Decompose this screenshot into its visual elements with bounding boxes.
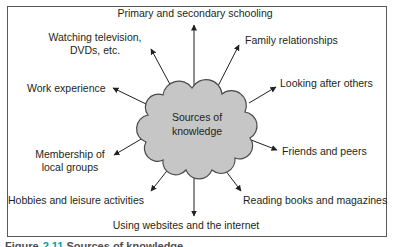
arrow-membership (114, 138, 143, 155)
cloud-title-line2: knowledge (172, 125, 222, 139)
node-friends: Friends and peers (282, 145, 367, 158)
node-watching-tv-line1: Watching television, (49, 31, 142, 44)
figure-caption-number: 2.11 (39, 240, 67, 247)
figure-caption: Figure2.11Sources of knowledge (5, 240, 183, 247)
node-websites: Using websites and the internet (113, 219, 260, 232)
arrow-family (217, 45, 239, 88)
node-watching-tv-line2: DVDs, etc. (49, 44, 142, 57)
node-looking: Looking after others (280, 77, 373, 90)
figure-caption-prefix: Figure (5, 240, 39, 247)
arrow-looking (249, 87, 276, 103)
node-schooling: Primary and secondary schooling (117, 7, 272, 20)
node-membership-line1: Membership of (35, 148, 104, 161)
node-membership: Membership of local groups (35, 148, 104, 174)
cloud-title: Sources of knowledge (172, 111, 222, 138)
node-hobbies: Hobbies and leisure activities (8, 194, 144, 207)
node-family: Family relationships (245, 34, 338, 47)
cloud-title-line1: Sources of (172, 111, 222, 125)
figure-caption-title: Sources of knowledge (66, 240, 183, 247)
node-membership-line2: local groups (35, 161, 104, 174)
spider-diagram: Sources of knowledge Primary and seconda… (0, 0, 395, 247)
arrow-work (113, 88, 146, 104)
node-work: Work experience (27, 82, 106, 95)
node-reading: Reading books and magazines (243, 194, 387, 207)
node-watching-tv: Watching television, DVDs, etc. (49, 31, 142, 57)
